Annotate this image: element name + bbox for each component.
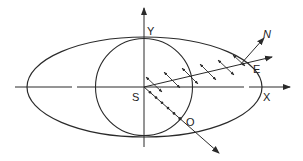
- x-axis-label: X: [263, 91, 271, 103]
- wave-surface-diagram: Y X S E N O: [0, 0, 303, 161]
- normal-label: N: [263, 28, 271, 40]
- wave-normal: [240, 38, 264, 65]
- extraordinary-vibration-arrows: [146, 55, 245, 92]
- origin-label: S: [132, 91, 139, 103]
- ordinary-point-label: O: [186, 116, 195, 128]
- extraordinary-point-label: E: [253, 63, 260, 75]
- y-axis-label: Y: [147, 25, 155, 37]
